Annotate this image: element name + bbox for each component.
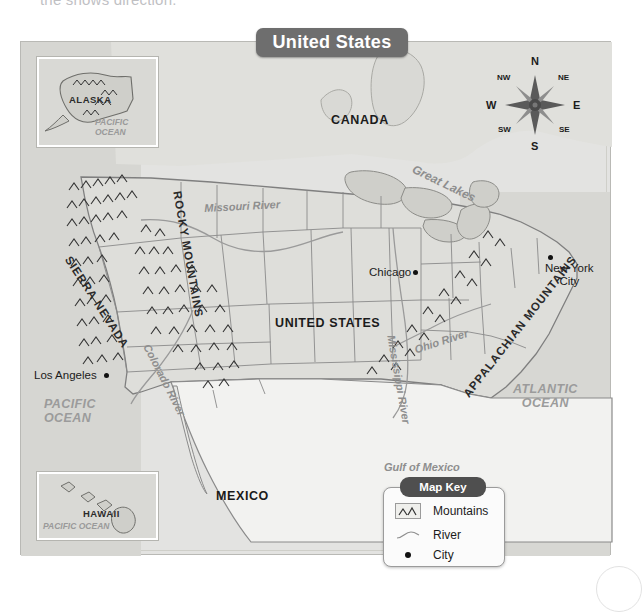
compass-north: N bbox=[531, 55, 539, 67]
map-title-text: United States bbox=[273, 32, 392, 53]
river-symbol-icon bbox=[394, 526, 422, 544]
compass-star-icon bbox=[487, 57, 583, 153]
new-york-line2: City bbox=[545, 275, 594, 288]
decorative-circle bbox=[596, 566, 642, 612]
label-canada: CANADA bbox=[331, 113, 389, 127]
compass-west: W bbox=[486, 99, 496, 111]
map-title-banner: United States bbox=[256, 28, 408, 57]
compass-south: S bbox=[531, 140, 538, 152]
map-key-label-city: City bbox=[433, 548, 454, 562]
pacific-ocean-line2: OCEAN bbox=[44, 411, 96, 425]
hawaii-inset-label: HAWAII bbox=[83, 508, 120, 519]
city-dot-chicago bbox=[413, 270, 418, 275]
map-key-title-banner: Map Key bbox=[400, 477, 486, 497]
label-chicago: Chicago bbox=[369, 266, 411, 279]
compass-southwest: SW bbox=[498, 125, 511, 134]
map-key-row-city: City bbox=[394, 546, 454, 564]
atlantic-ocean-line1: ATLANTIC bbox=[513, 382, 578, 396]
mountains-symbol-icon bbox=[394, 502, 422, 520]
city-dot-los-angeles bbox=[104, 373, 109, 378]
compass-northeast: NE bbox=[558, 73, 569, 82]
map-key-label-river: River bbox=[433, 528, 461, 542]
new-york-line1: New York bbox=[545, 262, 594, 275]
map-key-label-mountains: Mountains bbox=[433, 504, 488, 518]
compass-northwest: NW bbox=[497, 73, 510, 82]
compass-southeast: SE bbox=[559, 125, 570, 134]
label-gulf-of-mexico: Gulf of Mexico bbox=[384, 461, 460, 473]
compass-east: E bbox=[573, 99, 580, 111]
city-dot-symbol-icon bbox=[394, 546, 422, 564]
label-mexico: MEXICO bbox=[216, 489, 269, 503]
map-key-panel: Mountains River City bbox=[383, 487, 505, 567]
city-dot-new-york bbox=[548, 255, 553, 260]
compass-rose: N E S W NW NE SE SW bbox=[487, 57, 583, 153]
pacific-ocean-line1: PACIFIC bbox=[44, 397, 96, 411]
map-key-title-text: Map Key bbox=[419, 481, 466, 493]
alaska-ocean-line2: OCEAN bbox=[95, 127, 128, 137]
map-key-row-river: River bbox=[394, 526, 461, 544]
hawaii-inset: HAWAII PACIFIC OCEAN bbox=[37, 472, 158, 540]
label-los-angeles: Los Angeles bbox=[34, 369, 97, 382]
alaska-inset: ALASKA PACIFIC OCEAN bbox=[37, 57, 158, 147]
alaska-inset-ocean-label: PACIFIC OCEAN bbox=[95, 117, 128, 137]
atlantic-ocean-line2: OCEAN bbox=[513, 396, 578, 410]
partial-top-text: the shows direction. bbox=[40, 0, 177, 8]
label-united-states: UNITED STATES bbox=[275, 316, 380, 330]
label-new-york-city: New York City bbox=[545, 262, 594, 287]
label-pacific-ocean: PACIFIC OCEAN bbox=[44, 397, 96, 425]
map-key-row-mountains: Mountains bbox=[394, 502, 488, 520]
label-atlantic-ocean: ATLANTIC OCEAN bbox=[513, 382, 578, 410]
alaska-ocean-line1: PACIFIC bbox=[95, 117, 128, 127]
hawaii-inset-ocean-label: PACIFIC OCEAN bbox=[43, 521, 109, 531]
alaska-inset-label: ALASKA bbox=[69, 94, 112, 105]
